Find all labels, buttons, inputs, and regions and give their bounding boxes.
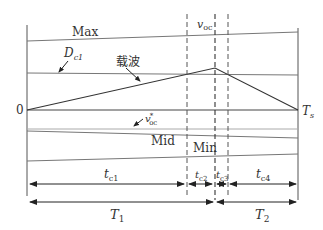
voc-label: voc <box>197 18 213 32</box>
dc1-pointer <box>59 61 68 72</box>
T2-label: T2 <box>255 207 269 224</box>
voc-star-label: v*oc <box>145 112 157 127</box>
mid-label: Mid <box>151 134 175 148</box>
tc3-label: tc3 <box>216 169 228 183</box>
tc1-label: tc1 <box>104 167 118 183</box>
min-label: Min <box>193 141 217 155</box>
dc1-label: Dc1 <box>63 46 83 62</box>
tc4-label: tc4 <box>256 167 270 183</box>
min-line <box>27 154 298 161</box>
voc-star-pointer <box>134 119 143 126</box>
max-line <box>27 32 298 41</box>
carrier-pointer <box>126 68 140 81</box>
carrier-label: 载波 <box>116 55 140 69</box>
zero-label: 0 <box>16 103 24 117</box>
dc1-line <box>27 73 298 75</box>
pwm-timing-diagram: Max Dc1 载波 0 Ts voc v*oc Mid Min tc1 tc2… <box>0 0 323 230</box>
ts-label: Ts <box>302 104 314 120</box>
max-label: Max <box>72 25 98 39</box>
T1-label: T1 <box>110 207 124 224</box>
tc2-label: tc2 <box>195 169 207 183</box>
